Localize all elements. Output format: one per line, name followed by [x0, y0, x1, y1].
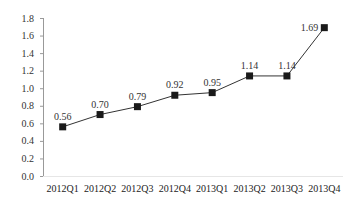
- square-marker-icon: [246, 72, 253, 79]
- x-category-label: 2013Q1: [196, 183, 228, 194]
- x-category-label: 2012Q3: [121, 183, 153, 194]
- data-point-label: 0.92: [166, 79, 184, 90]
- x-category-label: 2012Q2: [84, 183, 116, 194]
- square-marker-icon: [283, 72, 290, 79]
- y-tick-label: 1.4: [22, 48, 35, 59]
- data-series: [59, 24, 328, 130]
- y-tick-label: 0.4: [22, 135, 35, 146]
- x-category-label: 2013Q4: [308, 183, 340, 194]
- y-tick-label: 1.8: [22, 13, 35, 24]
- y-tick-label: 0.8: [22, 100, 35, 111]
- data-point-label: 1.69: [301, 22, 319, 33]
- x-category-label: 2013Q2: [233, 183, 265, 194]
- y-tick-label: 0.0: [22, 171, 35, 182]
- x-axis: 2012Q12012Q22012Q32012Q42013Q12013Q22013…: [43, 177, 343, 195]
- y-tick-label: 1.6: [22, 30, 35, 41]
- square-marker-icon: [321, 24, 328, 31]
- square-marker-icon: [59, 123, 66, 130]
- data-point-label: 1.14: [241, 60, 259, 71]
- data-point-label: 0.56: [54, 111, 72, 122]
- data-point-label: 0.79: [129, 91, 147, 102]
- square-marker-icon: [209, 89, 216, 96]
- y-axis: 0.00.20.40.60.81.01.21.41.61.8: [22, 13, 44, 182]
- data-point-label: 0.70: [91, 99, 109, 110]
- square-marker-icon: [97, 111, 104, 118]
- x-category-label: 2012Q1: [47, 183, 79, 194]
- line-chart: 0.00.20.40.60.81.01.21.41.61.8 2012Q1201…: [0, 0, 355, 201]
- y-tick-label: 1.0: [22, 83, 35, 94]
- x-category-label: 2013Q3: [271, 183, 303, 194]
- x-category-label: 2012Q4: [159, 183, 191, 194]
- data-labels: 0.560.700.790.920.951.141.141.69: [54, 22, 318, 122]
- data-point-label: 1.14: [278, 60, 296, 71]
- y-tick-label: 1.2: [22, 65, 35, 76]
- y-tick-label: 0.2: [22, 153, 35, 164]
- data-point-label: 0.95: [203, 77, 221, 88]
- square-marker-icon: [171, 92, 178, 99]
- y-tick-label: 0.6: [22, 118, 35, 129]
- square-marker-icon: [134, 103, 141, 110]
